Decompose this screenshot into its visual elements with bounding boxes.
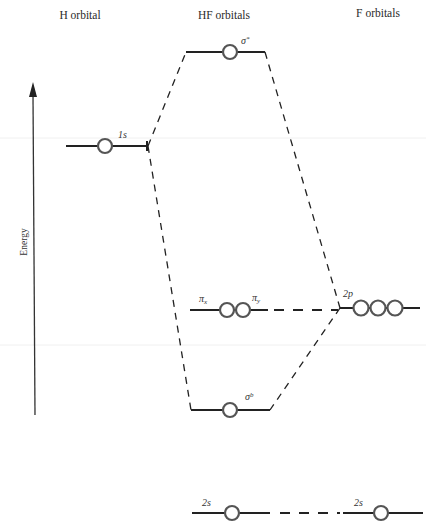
hf-sigma-star-level: σ* xyxy=(186,35,265,59)
hf-2s-label: 2s xyxy=(202,497,211,508)
orbital-circle-icon xyxy=(220,303,234,317)
orbital-circle-icon xyxy=(371,301,386,316)
orbital-circle-icon xyxy=(223,403,237,417)
hf-2s-level: 2s xyxy=(192,497,270,520)
h-1s-level: 1s xyxy=(66,129,148,153)
orbital-circle-icon xyxy=(225,506,239,520)
f-2p-label: 2p xyxy=(343,288,353,299)
dash-h1s-to-sigma-b xyxy=(148,146,191,410)
f-2s-level: 2s xyxy=(343,497,423,520)
h-1s-label: 1s xyxy=(118,129,127,140)
hf-pi-level: πx πy xyxy=(190,292,268,317)
pi-x-label: πx xyxy=(199,293,208,306)
f-2s-label: 2s xyxy=(354,497,363,508)
dash-f2p-to-sigma-b xyxy=(270,308,340,410)
orbital-circle-icon xyxy=(354,301,369,316)
header-f-orbitals: F orbitals xyxy=(356,7,400,19)
arrow-up-icon xyxy=(29,82,37,97)
orbital-circle-icon xyxy=(223,45,237,59)
sigma-b-label: σb xyxy=(245,391,254,402)
hf-sigma-bonding-level: σb xyxy=(191,391,270,417)
dash-sigma-star-to-f2p xyxy=(265,52,340,308)
correlation-lines xyxy=(148,52,340,513)
sigma-star-label: σ* xyxy=(241,35,250,46)
orbital-circle-icon xyxy=(374,506,388,520)
dash-h1s-to-sigma-star xyxy=(148,52,186,146)
mo-diagram: H orbital HF orbitals F orbitals Energy … xyxy=(0,0,426,530)
header-h-orbital: H orbital xyxy=(59,9,100,21)
f-2p-level: 2p xyxy=(340,288,420,316)
orbital-circle-icon xyxy=(388,301,403,316)
orbital-circle-icon xyxy=(236,303,250,317)
energy-axis-label: Energy xyxy=(19,228,29,256)
header-hf-orbitals: HF orbitals xyxy=(198,9,251,21)
orbital-circle-icon xyxy=(98,139,112,153)
energy-axis: Energy xyxy=(19,82,37,415)
energy-axis-line xyxy=(33,95,35,415)
pi-y-label: πy xyxy=(252,292,261,305)
